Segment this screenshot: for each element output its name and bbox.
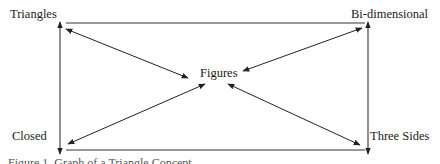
node-three-sides: Three Sides xyxy=(370,130,429,143)
threesides-figures-arrow xyxy=(228,84,360,145)
node-closed: Closed xyxy=(12,130,47,143)
node-triangles: Triangles xyxy=(10,8,57,21)
node-bi-dimensional: Bi-dimensional xyxy=(351,8,428,21)
node-figures: Figures xyxy=(200,67,238,80)
bidimensional-figures-arrow xyxy=(243,28,362,71)
concept-diagram: Triangles Bi-dimensional Figures Closed … xyxy=(0,0,440,164)
figure-caption: Figure 1. Graph of a Triangle Concept xyxy=(8,157,192,164)
triangles-figures-arrow xyxy=(66,29,188,78)
closed-figures-arrow xyxy=(68,84,205,144)
